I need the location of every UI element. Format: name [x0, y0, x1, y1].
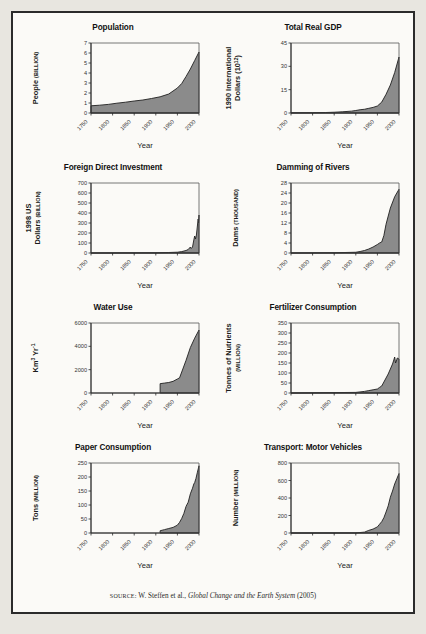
area-series [291, 189, 399, 253]
y-tick-label: 3 [84, 80, 87, 86]
y-tick-label: 7 [84, 40, 87, 46]
y-tick-label: 4000 [75, 343, 87, 349]
svg-text:Km3 Yr-1: Km3 Yr-1 [30, 343, 40, 372]
x-axis-label: Year [337, 141, 353, 150]
x-tick-label: 1950 [362, 118, 375, 131]
svg-text:Dollars (BILLION): Dollars (BILLION) [33, 191, 42, 244]
x-tick-label: 1850 [319, 258, 332, 271]
y-axis-label: Tons (MILLION) [31, 475, 40, 521]
y-tick-label: 5 [84, 60, 87, 66]
y-tick-label: 50 [81, 516, 87, 522]
x-tick-label: 1750 [276, 118, 289, 131]
x-tick-label: 1850 [319, 118, 332, 131]
y-tick-label: 45 [281, 40, 287, 46]
x-tick-label: 1800 [97, 538, 110, 551]
y-tick-label: 800 [278, 460, 287, 466]
y-axis-label: Dams (THOUSAND) [231, 189, 240, 247]
y-tick-label: 700 [78, 180, 87, 186]
y-axis-label: Km3 Yr-1 [30, 343, 40, 372]
y-tick-label: 0 [84, 530, 87, 536]
y-tick-label: 2000 [75, 367, 87, 373]
y-tick-label: 28 [281, 180, 287, 186]
plot-frame [291, 323, 399, 393]
panel-total-real-gdp: Total Real GDP 0153045175018001850190019… [213, 19, 413, 159]
figure-frame: Population 01234567175018001850190019502… [11, 11, 415, 614]
x-tick-label: 1850 [119, 118, 132, 131]
panel-damming-of-rivers: Damming of Rivers 0481216202428175018001… [213, 159, 413, 299]
x-axis-label: Year [337, 281, 353, 290]
x-tick-label: 1750 [76, 258, 89, 271]
y-tick-label: 20 [281, 200, 287, 206]
area-series [291, 57, 399, 113]
source-title: Global Change and the Earth System [188, 592, 295, 600]
y-tick-label: 600 [278, 478, 287, 484]
area-series [160, 466, 199, 533]
x-tick-label: 1900 [140, 118, 153, 131]
x-tick-label: 1750 [276, 538, 289, 551]
y-tick-label: 16 [281, 210, 287, 216]
x-tick-label: 1850 [119, 398, 132, 411]
plot-area-population: 01234567175018001850190019502000YearPeop… [13, 19, 213, 159]
x-tick-label: 2000 [184, 398, 197, 411]
y-tick-label: 30 [281, 63, 287, 69]
x-tick-label: 1950 [362, 398, 375, 411]
y-tick-label: 500 [78, 200, 87, 206]
x-tick-label: 1800 [297, 118, 310, 131]
x-tick-label: 1750 [76, 538, 89, 551]
area-series [291, 357, 399, 393]
plot-axes [91, 183, 199, 253]
area-series [91, 215, 199, 253]
x-tick-label: 2000 [184, 118, 197, 131]
plot-area-water-use: 0200040006000175018001850190019502000Yea… [13, 299, 213, 439]
x-tick-label: 2000 [384, 538, 397, 551]
x-axis-label: Year [137, 141, 153, 150]
plot-area-transport-motor-vehicles: 0200400600800175018001850190019502000Yea… [213, 439, 413, 579]
x-tick-label: 1950 [162, 118, 175, 131]
x-tick-label: 1850 [319, 538, 332, 551]
y-tick-label: 6 [84, 50, 87, 56]
x-axis-label: Year [137, 281, 153, 290]
panel-fertilizer-consumption: Fertilizer Consumption 05010015020025030… [213, 299, 413, 439]
x-tick-label: 2000 [384, 118, 397, 131]
x-axis-label: Year [137, 561, 153, 570]
x-tick-label: 1750 [76, 398, 89, 411]
y-tick-label: 100 [78, 502, 87, 508]
y-tick-label: 100 [78, 240, 87, 246]
y-tick-label: 200 [278, 513, 287, 519]
svg-text:People (BILLION): People (BILLION) [31, 52, 40, 105]
area-series [291, 474, 399, 534]
plot-area-paper-consumption: 050100150200250175018001850190019502000Y… [13, 439, 213, 579]
y-tick-label: 0 [284, 110, 287, 116]
svg-text:Tonnes of Nutrients: Tonnes of Nutrients [224, 323, 233, 392]
y-axis-label: 1998 USDollars (BILLION) [24, 191, 42, 244]
y-tick-label: 0 [84, 110, 87, 116]
area-series [160, 330, 199, 393]
svg-text:(MILLION): (MILLION) [235, 344, 241, 372]
y-tick-label: 200 [278, 350, 287, 356]
x-tick-label: 1950 [362, 538, 375, 551]
y-tick-label: 350 [278, 320, 287, 326]
y-tick-label: 300 [278, 330, 287, 336]
y-tick-label: 12 [281, 220, 287, 226]
x-tick-label: 1900 [140, 538, 153, 551]
y-tick-label: 4 [284, 240, 287, 246]
plot-frame [91, 183, 199, 253]
plot-axes [291, 323, 399, 393]
x-tick-label: 1950 [162, 398, 175, 411]
y-tick-label: 250 [278, 340, 287, 346]
x-tick-label: 1850 [119, 258, 132, 271]
x-tick-label: 1750 [276, 258, 289, 271]
y-tick-label: 6000 [75, 320, 87, 326]
y-tick-label: 400 [78, 210, 87, 216]
x-tick-label: 1850 [319, 398, 332, 411]
plot-area-damming-of-rivers: 0481216202428175018001850190019502000Yea… [213, 159, 413, 299]
x-tick-label: 1750 [276, 398, 289, 411]
y-tick-label: 200 [78, 230, 87, 236]
source-prefix: SOURCE: [110, 593, 137, 599]
x-tick-label: 1950 [162, 258, 175, 271]
svg-text:Dams (THOUSAND): Dams (THOUSAND) [231, 189, 240, 247]
y-tick-label: 0 [284, 250, 287, 256]
x-tick-label: 1800 [297, 538, 310, 551]
y-tick-label: 50 [281, 380, 287, 386]
y-axis-label: People (BILLION) [31, 52, 40, 105]
